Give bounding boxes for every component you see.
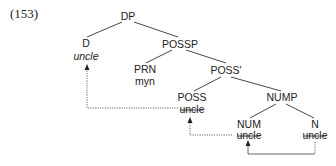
movement-n-to-num — [246, 140, 316, 154]
arrowhead-icon — [85, 64, 90, 70]
node-prn-word: myn — [135, 75, 155, 87]
movement-num-to-poss — [188, 117, 233, 135]
node-nump: NUMP — [267, 91, 298, 103]
syntax-tree: DP D uncle POSSP PRN myn POSS' POSS uncl… — [0, 0, 336, 166]
movement-poss-to-d — [85, 64, 179, 108]
node-prn: PRN — [134, 63, 156, 75]
node-dp: DP — [121, 10, 136, 22]
node-num-word: uncle — [236, 129, 261, 141]
node-possp: POSSP — [162, 38, 198, 50]
node-poss-word: uncle — [179, 103, 204, 115]
node-d: D — [82, 37, 90, 49]
node-poss-bar: POSS' — [210, 64, 241, 76]
node-n-word: uncle — [302, 129, 327, 141]
node-d-word: uncle — [73, 50, 98, 62]
arrowhead-icon — [188, 117, 193, 123]
node-poss: POSS — [177, 91, 206, 103]
